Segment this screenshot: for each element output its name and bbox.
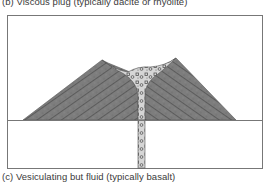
caption-bottom: (c) Vesiculating but fluid (typically ba… bbox=[2, 171, 175, 182]
volcanic-cone-left bbox=[23, 60, 139, 120]
volcano-cross-section bbox=[0, 0, 272, 183]
conduit bbox=[138, 120, 145, 168]
